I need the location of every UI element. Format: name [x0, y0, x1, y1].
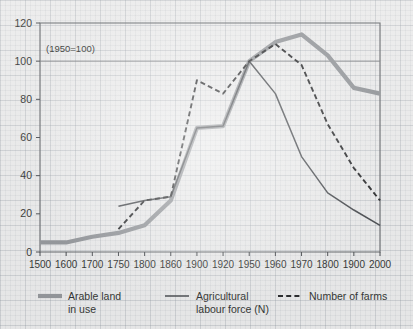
x-axis: 1500160017001750180018601900192019501960…	[29, 252, 392, 270]
y-tick-label: 0	[26, 246, 32, 258]
legend-item-agricultural-labour-force: Agricultural labour force (N)	[165, 290, 269, 315]
legend-label-labour-line2: labour force (N)	[196, 303, 269, 315]
x-tick-label: 1950	[238, 259, 261, 270]
legend-label-arable-line1: Arable land	[68, 290, 121, 302]
index-base-annotation: (1950=100)	[46, 43, 95, 54]
legend-label-farms-line1: Number of farms	[309, 290, 387, 302]
x-tick-label: 1860	[160, 259, 183, 270]
line-chart: 020406080100120 150016001700175018001860…	[0, 0, 413, 329]
chart-legend: Arable land in use Agricultural labour f…	[38, 290, 387, 315]
legend-item-number-of-farms: Number of farms	[278, 290, 387, 302]
x-tick-label: 1960	[264, 259, 287, 270]
y-tick-label: 40	[20, 169, 32, 181]
series-group	[40, 34, 380, 242]
x-tick-label: 1970	[290, 259, 313, 270]
y-tick-label: 80	[20, 93, 32, 105]
x-tick-label: 1700	[81, 259, 104, 270]
y-axis: 020406080100120	[14, 17, 40, 258]
x-tick-label: 1900	[343, 259, 366, 270]
x-tick-label: 1800	[133, 259, 156, 270]
series-line-agricultural-labour-force	[118, 61, 380, 225]
y-tick-label: 60	[20, 131, 32, 143]
x-tick-label: 1600	[55, 259, 78, 270]
y-tick-label: 20	[20, 207, 32, 219]
x-tick-label: 1920	[212, 259, 235, 270]
x-tick-label: 1750	[107, 259, 130, 270]
y-tick-label: 120	[14, 17, 32, 29]
x-tick-label: 1500	[29, 259, 52, 270]
x-tick-label: 1800	[317, 259, 340, 270]
y-tick-label: 100	[14, 55, 32, 67]
chart-figure: 020406080100120 150016001700175018001860…	[0, 0, 413, 329]
legend-label-arable-line2: in use	[68, 303, 96, 315]
series-line-arable-land	[40, 34, 380, 242]
legend-label-labour-line1: Agricultural	[196, 290, 249, 302]
x-tick-label: 2000	[369, 259, 392, 270]
legend-item-arable-land: Arable land in use	[38, 290, 121, 315]
x-tick-label: 1900	[186, 259, 209, 270]
